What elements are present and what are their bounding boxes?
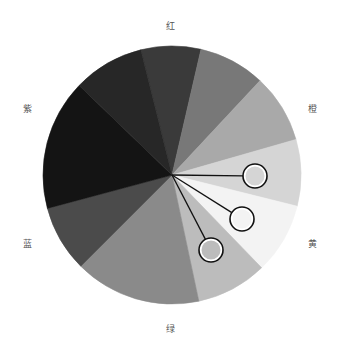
label-orange: 橙 xyxy=(308,105,317,114)
label-red: 红 xyxy=(166,22,175,31)
marker-swatch xyxy=(233,210,252,229)
label-blue: 蓝 xyxy=(23,240,32,249)
label-green: 绿 xyxy=(166,325,175,334)
marker-line xyxy=(172,175,243,176)
color-wheel xyxy=(0,0,340,357)
label-yellow: 黄 xyxy=(308,240,317,249)
marker-swatch xyxy=(202,241,221,260)
label-purple: 紫 xyxy=(23,105,32,114)
marker-swatch xyxy=(246,167,265,186)
